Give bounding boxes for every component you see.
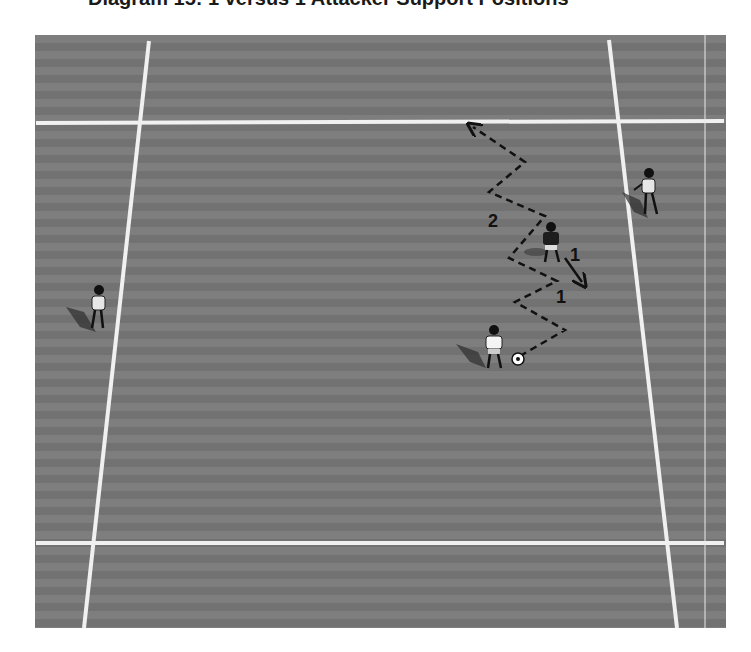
support-player-left: [66, 285, 105, 332]
defender-player: [524, 222, 559, 262]
label-defender-1: 1: [570, 245, 580, 265]
right-sideline: [609, 40, 677, 628]
attacker-player: [456, 325, 502, 368]
soccer-ball-icon: [512, 353, 524, 365]
field-diagram: 2 1 1: [0, 0, 751, 652]
field-lines: [36, 40, 724, 628]
label-dribble-1: 1: [556, 287, 566, 307]
left-sideline: [84, 41, 149, 628]
label-run-2: 2: [488, 211, 498, 231]
